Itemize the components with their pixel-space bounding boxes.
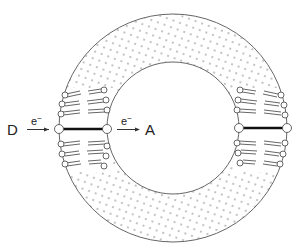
donor-label: D <box>7 121 18 138</box>
lipid-head <box>235 150 241 156</box>
lipid-head <box>237 160 243 166</box>
lipid-head <box>103 153 109 159</box>
lipid-head <box>62 161 68 167</box>
lipid-head <box>281 102 287 108</box>
vesicle-diagram: D e− e− A <box>0 0 303 252</box>
lipid-head <box>103 97 109 103</box>
lipid-head <box>104 143 110 149</box>
acceptor-label: A <box>145 121 155 138</box>
lipid-head <box>59 151 65 157</box>
wire-head-outer-right <box>283 124 292 133</box>
lipid-head <box>58 141 64 147</box>
lipid-head <box>277 161 283 167</box>
lipid-head <box>282 140 288 146</box>
lipid-head <box>235 97 241 103</box>
lipid-head <box>101 163 107 169</box>
lipid-head <box>58 111 64 117</box>
wire-head-inner-left <box>103 125 112 134</box>
lipid-head <box>278 92 284 98</box>
lipid-head <box>104 107 110 113</box>
lipid-head <box>237 87 243 93</box>
lipid-head <box>59 101 65 107</box>
lipid-head <box>234 107 240 113</box>
wire-head-inner-right <box>235 124 244 133</box>
lipid-head <box>234 140 240 146</box>
lipid-head <box>282 112 288 118</box>
lipid-head <box>280 151 286 157</box>
lipid-head <box>62 92 68 98</box>
lipid-head <box>101 87 107 93</box>
wire-head-outer-left <box>55 125 64 134</box>
